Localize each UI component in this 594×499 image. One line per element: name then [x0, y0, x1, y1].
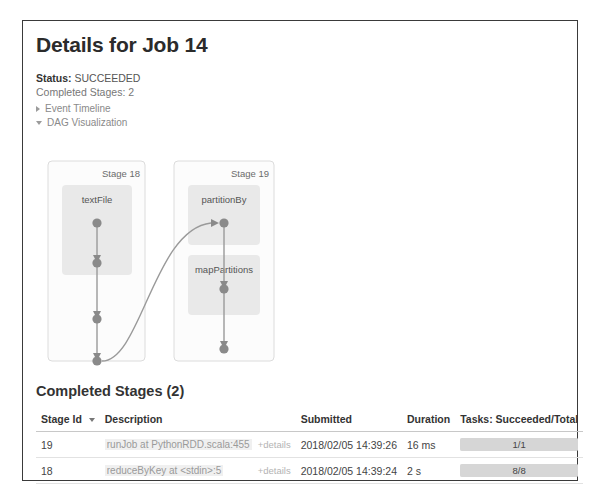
toggle-dag-visualization[interactable]: DAG Visualization [36, 116, 127, 130]
rdd-label-partitionby: partitionBy [202, 194, 247, 205]
triangle-right-icon [36, 106, 40, 112]
stage-18-title: Stage 18 [102, 168, 140, 179]
status-row: Status: SUCCEEDED [36, 71, 140, 85]
toggle-event-timeline-label: Event Timeline [45, 102, 111, 116]
table-body: 19 runJob at PythonRDD.scala:455 +detail… [36, 432, 583, 484]
sort-descending-icon [89, 418, 95, 422]
dag-node[interactable] [92, 258, 101, 267]
stage-19-title: Stage 19 [231, 168, 269, 179]
description-wrapper: reduceByKey at <stdin>:5 +details [105, 465, 291, 476]
cell-submitted: 2018/02/05 14:39:24 [296, 458, 402, 484]
job-details-card: Details for Job 14 Status: SUCCEEDED Com… [22, 20, 578, 481]
table-head: Stage Id Description Submitted Duration … [36, 409, 583, 432]
cell-tasks: 8/8 [455, 458, 583, 484]
task-progress-label: 8/8 [460, 464, 578, 477]
column-header-submitted[interactable]: Submitted [296, 409, 402, 432]
job-summary: Status: SUCCEEDED Completed Stages: 2 [36, 71, 140, 99]
cell-description: reduceByKey at <stdin>:5 +details [100, 458, 296, 484]
description-wrapper: runJob at PythonRDD.scala:455 +details [105, 439, 291, 450]
page-title: Details for Job 14 [36, 33, 207, 57]
toggle-event-timeline[interactable]: Event Timeline [36, 102, 127, 116]
details-toggle-link[interactable]: +details [258, 439, 291, 450]
cell-submitted: 2018/02/05 14:39:26 [296, 432, 402, 458]
column-header-stage-id-label: Stage Id [41, 413, 82, 425]
dag-node[interactable] [92, 356, 101, 365]
card-inner: Details for Job 14 Status: SUCCEEDED Com… [23, 21, 577, 480]
details-toggle-link[interactable]: +details [258, 465, 291, 476]
dag-node[interactable] [92, 314, 101, 323]
column-header-tasks[interactable]: Tasks: Succeeded/Total [455, 409, 583, 432]
dag-node[interactable] [219, 344, 228, 353]
dag-node[interactable] [219, 218, 228, 227]
table-header-row: Stage Id Description Submitted Duration … [36, 409, 583, 432]
page-root: Details for Job 14 Status: SUCCEEDED Com… [0, 0, 594, 499]
dag-node[interactable] [92, 218, 101, 227]
stage-description-link[interactable]: reduceByKey at <stdin>:5 [105, 465, 224, 476]
completed-stages-heading: Completed Stages (2) [36, 383, 184, 399]
completed-stages-table: Stage Id Description Submitted Duration … [36, 409, 583, 484]
cell-tasks: 1/1 [455, 432, 583, 458]
dag-node[interactable] [219, 284, 228, 293]
task-progress-bar: 8/8 [460, 464, 578, 477]
dag-visualization[interactable]: Stage 18 textFile [36, 133, 566, 373]
column-header-duration[interactable]: Duration [402, 409, 455, 432]
toggle-dag-visualization-label: DAG Visualization [47, 116, 127, 130]
cell-stage-id: 19 [36, 432, 100, 458]
task-progress-bar: 1/1 [460, 438, 578, 451]
dag-svg: Stage 18 textFile [36, 133, 566, 373]
triangle-down-icon [36, 121, 42, 125]
cell-description: runJob at PythonRDD.scala:455 +details [100, 432, 296, 458]
table-row: 19 runJob at PythonRDD.scala:455 +detail… [36, 432, 583, 458]
completed-stages-row: Completed Stages: 2 [36, 85, 140, 99]
cell-duration: 16 ms [402, 432, 455, 458]
table-row: 18 reduceByKey at <stdin>:5 +details 201… [36, 458, 583, 484]
status-label: Status: [36, 72, 72, 84]
task-progress-label: 1/1 [460, 438, 578, 451]
stage-description-link[interactable]: runJob at PythonRDD.scala:455 [105, 439, 252, 450]
cell-duration: 2 s [402, 458, 455, 484]
column-header-stage-id[interactable]: Stage Id [36, 409, 100, 432]
cell-stage-id: 18 [36, 458, 100, 484]
status-value: SUCCEEDED [75, 72, 141, 84]
section-toggles: Event Timeline DAG Visualization [36, 102, 127, 129]
rdd-label-textfile: textFile [82, 194, 113, 205]
column-header-description[interactable]: Description [100, 409, 296, 432]
